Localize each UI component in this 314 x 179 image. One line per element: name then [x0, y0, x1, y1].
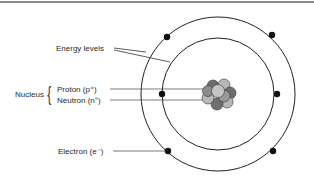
electron-dot [159, 91, 165, 97]
neutron-label: Neutron (n°) [57, 96, 101, 105]
nucleus-label: Nucleus [15, 90, 44, 99]
proton-label: Proton (p⁺) [57, 85, 97, 94]
nucleus [202, 79, 236, 110]
electron-dot [269, 32, 275, 38]
electron-dot [164, 34, 170, 40]
nucleus-brace: { [47, 84, 51, 104]
electron-dot [270, 148, 276, 154]
energy-levels-label: Energy levels [56, 44, 104, 53]
electron-dot [165, 148, 171, 154]
atom-diagram: Energy levels Nucleus { Proton (p⁺) Neut… [0, 0, 314, 179]
electron-dot [274, 91, 280, 97]
electron-label: Electron (e⁻) [58, 147, 103, 156]
